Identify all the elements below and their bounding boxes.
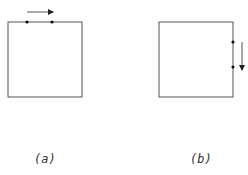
panel-a bbox=[8, 12, 82, 97]
dot-a-1 bbox=[25, 20, 28, 23]
diagram-canvas bbox=[0, 0, 248, 175]
panel-b bbox=[159, 22, 242, 97]
square-b bbox=[159, 22, 233, 97]
dot-b-1 bbox=[231, 40, 234, 43]
dot-b-2 bbox=[231, 65, 234, 68]
caption-b: (b) bbox=[190, 152, 212, 166]
caption-a: (a) bbox=[34, 152, 56, 166]
dot-a-2 bbox=[50, 20, 53, 23]
square-a bbox=[8, 22, 82, 97]
